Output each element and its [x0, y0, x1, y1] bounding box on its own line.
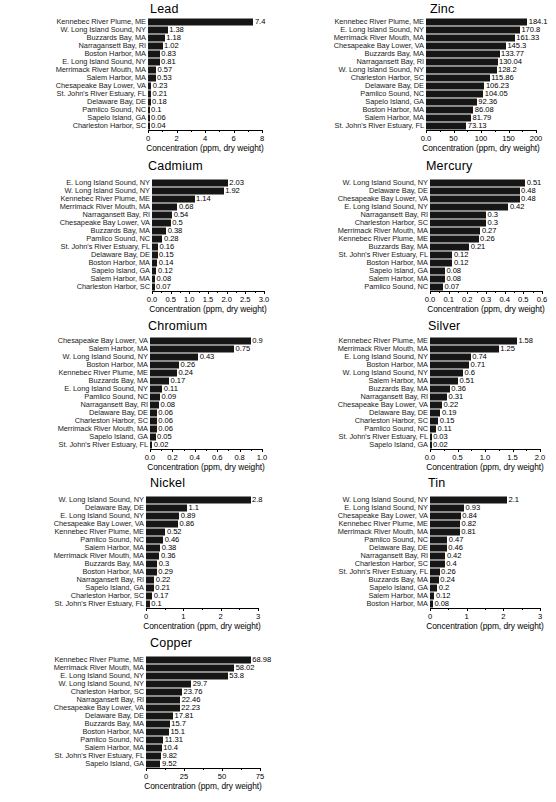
x-axis-minor-tick	[165, 608, 166, 610]
bar	[430, 180, 525, 187]
x-axis-tick	[183, 608, 184, 611]
bar	[426, 67, 497, 74]
x-axis-title: Concentration (ppm, dry weight)	[144, 781, 262, 791]
bar-value-label: 1.14	[196, 195, 211, 203]
bar	[146, 529, 165, 536]
x-axis-tick-label: 0.2	[462, 295, 472, 304]
x-axis-tick-label: 4	[203, 134, 207, 143]
x-axis-minor-tick	[471, 449, 472, 451]
bar-row: Boston Harbor, MA0.08	[278, 600, 556, 608]
chart-title: Copper	[150, 636, 192, 650]
bar-row: St. John's River Estuary, FL0.02	[0, 441, 278, 449]
x-axis-tick	[195, 449, 196, 452]
x-axis-tick-label: 50	[449, 134, 457, 143]
x-axis-minor-tick	[522, 130, 523, 132]
bar	[430, 601, 433, 608]
bar	[150, 386, 162, 393]
bar	[430, 228, 480, 235]
bar	[430, 513, 461, 520]
x-axis-tick	[542, 291, 543, 294]
bar	[426, 91, 483, 98]
bar-value-label: 0.07	[156, 283, 171, 291]
x-axis-tick	[258, 608, 259, 611]
bar	[148, 27, 168, 34]
x-axis-tick	[509, 130, 510, 133]
x-axis-minor-tick	[248, 130, 249, 132]
bar-row: Charleston Harbor, SC0.04	[0, 122, 278, 130]
bar	[430, 370, 463, 377]
bar	[426, 51, 500, 58]
plot-area: Kennebec River Plume, ME68.98Merrimack R…	[0, 634, 278, 802]
chart-panel-chromium: ChromiumChesapeake Bay Lower, VA0.9Salem…	[0, 317, 278, 474]
x-axis-minor-tick	[495, 130, 496, 132]
bar-value-label: 2.1	[509, 496, 519, 504]
x-axis-minor-tick	[203, 768, 204, 770]
x-axis-tick-label: 2.0	[535, 453, 545, 462]
x-axis-tick-label: 0.5	[452, 453, 462, 462]
bar	[146, 745, 162, 752]
x-axis-minor-tick	[440, 130, 441, 132]
bar	[148, 115, 150, 122]
bar-value-label: 0.04	[151, 122, 166, 130]
x-axis-tick	[458, 449, 459, 452]
category-label: Sapelo Island, GA	[369, 441, 428, 449]
x-axis-tick-label: 2.5	[240, 295, 250, 304]
x-axis-tick	[205, 130, 206, 133]
plot-area: Kennebec River Plume, ME1.58Merrimack Ri…	[278, 317, 556, 474]
bar	[148, 123, 150, 130]
bar-row: St. John's River Estuary, FL0.1	[0, 600, 278, 608]
bar-value-label: 7.4	[255, 18, 265, 26]
bar	[152, 252, 158, 259]
x-axis-tick-label: 150	[502, 134, 515, 143]
bar	[150, 442, 152, 449]
bar-value-label: 0.08	[434, 600, 449, 608]
bar	[146, 585, 154, 592]
x-axis-tick	[513, 449, 514, 452]
x-axis-minor-tick	[219, 130, 220, 132]
x-axis-tick	[217, 449, 218, 452]
bar	[430, 402, 442, 409]
bar	[426, 83, 484, 90]
bar	[152, 212, 172, 219]
x-axis-minor-tick	[495, 291, 496, 293]
x-axis-tick-label: 1.0	[184, 295, 194, 304]
bar	[146, 601, 150, 608]
x-axis-title: Concentration (ppm, dry weight)	[143, 621, 261, 631]
x-axis-tick	[146, 608, 147, 611]
bar	[146, 513, 179, 520]
x-axis-minor-tick	[514, 291, 515, 293]
chart-title: Tin	[428, 476, 446, 490]
x-axis-tick-label: 1	[465, 612, 469, 621]
x-axis-minor-tick	[180, 291, 181, 293]
x-axis-tick-label: 0.0	[425, 295, 435, 304]
category-label: Pamlico Sound, NC	[364, 283, 428, 291]
bar	[150, 346, 234, 353]
bar	[146, 545, 160, 552]
x-axis-tick-label: 1	[181, 612, 185, 621]
bar	[430, 354, 471, 361]
bar-value-label: 0.42	[510, 203, 525, 211]
x-axis-tick-label: 0.2	[167, 453, 177, 462]
x-axis-minor-tick	[499, 449, 500, 451]
x-axis-tick	[426, 130, 427, 133]
x-axis-tick-label: 0.8	[234, 453, 244, 462]
bar	[146, 737, 163, 744]
x-axis-tick	[177, 130, 178, 133]
bar	[146, 753, 161, 760]
x-axis-tick-label: 2	[501, 612, 505, 621]
bar	[426, 107, 473, 114]
x-axis-tick-label: 1.5	[203, 295, 213, 304]
x-axis-minor-tick	[477, 291, 478, 293]
x-axis-tick-label: 50	[218, 772, 226, 781]
x-axis-tick	[146, 768, 147, 771]
chart-title: Chromium	[148, 319, 207, 333]
bar	[146, 721, 170, 728]
x-axis-tick	[221, 608, 222, 611]
bar	[148, 19, 253, 26]
plot-area: Kennebec River Plume, ME7.4W. Long Islan…	[0, 0, 278, 157]
bar-value-label: 0.75	[236, 345, 251, 353]
bar-value-label: 9.52	[162, 760, 177, 768]
bar	[152, 276, 155, 283]
x-axis-tick	[485, 449, 486, 452]
bar	[430, 268, 445, 275]
